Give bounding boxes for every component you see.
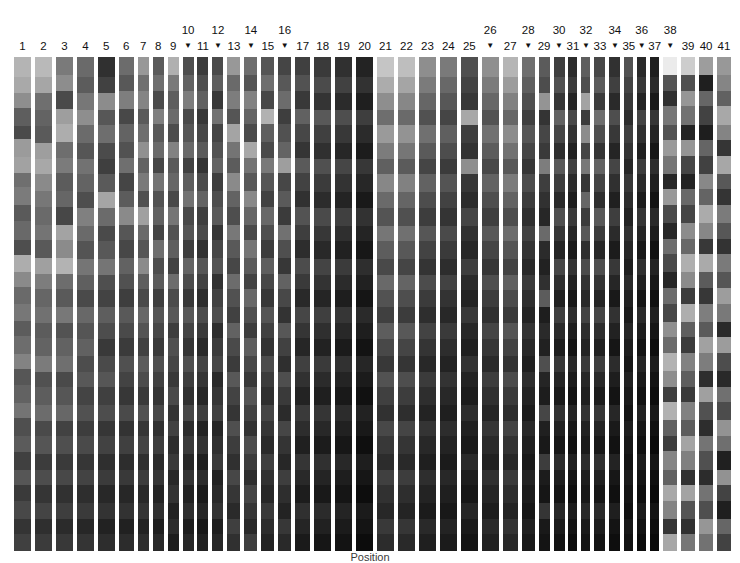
heatmap-cell [56, 91, 73, 109]
heatmap-cell [183, 289, 194, 307]
heatmap-cell [522, 356, 535, 373]
heatmap-cell [554, 356, 565, 373]
heatmap-cell [356, 77, 373, 94]
heatmap-cell [594, 405, 605, 422]
heatmap-cell [624, 503, 633, 520]
heatmap-cell [594, 125, 605, 143]
heatmap-cell [261, 519, 274, 535]
heatmap-column [419, 57, 436, 550]
heatmap-column [278, 57, 291, 550]
heatmap-cell [539, 192, 550, 209]
heatmap-cell [278, 356, 291, 373]
heatmap-cell [335, 208, 352, 226]
heatmap-cell [14, 139, 31, 157]
heatmap-cell [197, 289, 208, 307]
heatmap-cell [419, 421, 436, 437]
heatmap-cell [227, 356, 240, 373]
heatmap-cell [581, 226, 590, 242]
heatmap-cell [314, 519, 331, 535]
heatmap-cell [153, 338, 164, 356]
heatmap-cell [624, 454, 633, 471]
heatmap-cell [335, 93, 352, 111]
heatmap-cell [637, 77, 646, 94]
heatmap-cell [98, 534, 115, 551]
heatmap-cell [356, 93, 373, 111]
heatmap-cell [244, 323, 257, 339]
heatmap-cell [568, 387, 577, 405]
heatmap-cell [56, 372, 73, 388]
heatmap-cell [377, 485, 394, 503]
heatmap-cell [699, 288, 713, 304]
heatmap-cell [568, 470, 577, 486]
heatmap-cell [539, 405, 550, 422]
heatmap-cell [377, 290, 394, 308]
heatmap-cell [554, 405, 565, 422]
heatmap-cell [56, 519, 73, 535]
heatmap-cell [197, 485, 208, 503]
heatmap-cell [398, 208, 415, 226]
heatmap-cell [568, 421, 577, 437]
heatmap-cell [699, 272, 713, 288]
heatmap-cell [637, 241, 646, 259]
heatmap-cell [212, 75, 223, 92]
heatmap-cell [77, 208, 94, 226]
heatmap-cell [314, 259, 331, 276]
heatmap-cell [212, 274, 223, 290]
heatmap-cell [183, 436, 194, 454]
heatmap-cell [503, 503, 518, 520]
heatmap-cell [594, 387, 605, 405]
heatmap-cell [244, 470, 257, 486]
heatmap-cell [568, 125, 577, 143]
heatmap-cell [227, 274, 240, 290]
heatmap-cell [568, 356, 577, 373]
heatmap-cell [356, 143, 373, 160]
heatmap-cell [581, 356, 590, 373]
heatmap-cell [56, 173, 73, 191]
heatmap-cell [212, 109, 223, 125]
heatmap-cell [138, 323, 149, 339]
heatmap-cell [503, 259, 518, 276]
heatmap-cell [197, 158, 208, 174]
heatmap-cell [335, 454, 352, 471]
heatmap-column [335, 57, 352, 550]
heatmap-cell [624, 241, 633, 259]
heatmap-cell [377, 519, 394, 535]
heatmap-cell [295, 485, 310, 503]
heatmap-cell [624, 436, 633, 454]
heatmap-cell [168, 158, 179, 174]
heatmap-cell [261, 436, 274, 454]
heatmap-cell [212, 485, 223, 503]
heatmap-column [522, 57, 535, 550]
heatmap-cell [212, 436, 223, 454]
heatmap-cell [568, 519, 577, 535]
heatmap-cell [461, 519, 478, 535]
heatmap-cell [522, 339, 535, 357]
heatmap-cell [295, 207, 310, 225]
heatmap-cell [440, 356, 457, 373]
heatmap-cell [56, 75, 73, 92]
heatmap-cell [554, 208, 565, 226]
heatmap-cell [482, 307, 499, 324]
heatmap-cell [568, 192, 577, 209]
heatmap-cell [419, 290, 436, 308]
heatmap-column [168, 57, 179, 550]
heatmap-cell [609, 275, 620, 291]
heatmap-cell [335, 307, 352, 324]
heatmap-cell [377, 226, 394, 242]
heatmap-cell [244, 356, 257, 373]
heatmap-cell [539, 259, 550, 276]
heatmap-cell [650, 519, 659, 535]
heatmap-cell [461, 436, 478, 454]
heatmap-cell [295, 91, 310, 109]
heatmap-cell [717, 254, 731, 273]
heatmap-cell [227, 258, 240, 275]
heatmap-cell [138, 519, 149, 535]
heatmap-cell [119, 109, 134, 125]
heatmap-cell [581, 259, 590, 276]
heatmap-cell [35, 338, 52, 356]
heatmap-cell [609, 421, 620, 437]
heatmap-cell [244, 307, 257, 324]
heatmap-cell [568, 307, 577, 324]
heatmap-cell [244, 485, 257, 503]
heatmap-cell [609, 208, 620, 226]
